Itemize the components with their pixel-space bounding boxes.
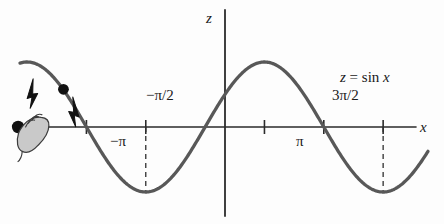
z-axis-label: z <box>206 11 212 26</box>
hand-cursor-icon[interactable] <box>6 112 58 162</box>
traveling-point-marker[interactable] <box>58 84 69 95</box>
tick-label-neg-pi-over-2: −π/2 <box>146 88 174 103</box>
equation-eq-sign: = <box>350 69 358 85</box>
equation-var: x <box>383 69 390 85</box>
tick-label-pi: π <box>296 134 304 149</box>
tick-label-neg-pi: −π <box>110 134 126 149</box>
figure-canvas: z x −π −π/2 π 3π/2 z = sin x <box>0 0 444 224</box>
tick-label-3pi-over-2: 3π/2 <box>332 88 359 103</box>
x-axis-label: x <box>420 120 427 135</box>
hand-wrist <box>15 151 25 161</box>
dashed-drop-lines <box>146 127 383 192</box>
arrow-up-icon <box>25 79 39 109</box>
arrow-down-icon <box>67 97 82 127</box>
x-axis <box>20 120 416 134</box>
arrow-down-glyph <box>67 97 82 127</box>
equation-sin: sin <box>362 69 380 85</box>
curve-equation-label: z = sin x <box>340 70 390 85</box>
arrow-up-glyph <box>25 79 39 109</box>
sine-plot-svg <box>0 0 444 224</box>
